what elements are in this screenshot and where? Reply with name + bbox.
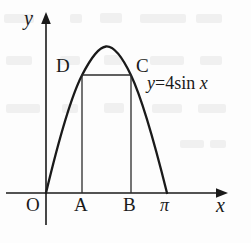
equation-lhs: y bbox=[147, 73, 155, 93]
curve-equation-label: y=4sin x bbox=[147, 74, 208, 92]
point-label-d: D bbox=[56, 56, 70, 75]
equation-coefficient: 4 bbox=[165, 73, 174, 93]
equation-equals: = bbox=[155, 73, 165, 93]
x-axis-label: x bbox=[216, 195, 225, 215]
equation-function: sin bbox=[174, 73, 195, 93]
equation-argument: x bbox=[200, 73, 208, 93]
tick-label-b: B bbox=[123, 195, 136, 214]
math-figure: y x O A B π D C y=4sin x bbox=[0, 0, 251, 243]
y-axis-arrowhead bbox=[41, 12, 51, 24]
y-axis-label: y bbox=[24, 8, 33, 28]
origin-label: O bbox=[26, 195, 40, 214]
tick-label-pi: π bbox=[160, 196, 169, 214]
tick-label-a: A bbox=[74, 195, 88, 214]
